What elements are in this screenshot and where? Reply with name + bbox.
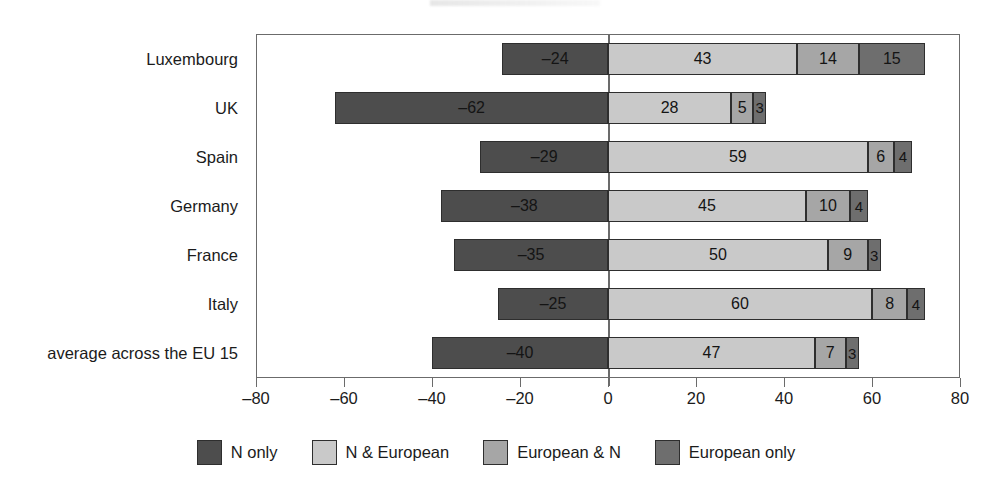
x-axis-tick-label: –60 [330, 390, 358, 407]
y-axis-label: Germany [170, 198, 238, 215]
x-axis-tick-label: –40 [418, 390, 446, 407]
y-axis-label: Luxembourg [146, 51, 238, 68]
scan-artifact [430, 0, 600, 6]
x-axis: –80–60–40–20020406080 [256, 378, 960, 379]
stacked-bar-chart: LuxembourgUKSpainGermanyFranceItalyavera… [0, 0, 992, 483]
legend-item[interactable]: European & N [483, 440, 621, 465]
legend-item[interactable]: N only [197, 440, 278, 465]
x-axis-tick [432, 378, 433, 387]
x-axis-tick-label: –80 [242, 390, 270, 407]
legend-item[interactable]: N & European [312, 440, 450, 465]
x-axis-tick-label: 60 [863, 390, 881, 407]
legend-label: N & European [346, 444, 450, 461]
x-axis-tick [256, 378, 257, 387]
x-axis-tick [520, 378, 521, 387]
x-axis-tick [960, 378, 961, 387]
x-axis-tick-label: 0 [603, 390, 612, 407]
x-axis-tick-label: 20 [687, 390, 705, 407]
legend-swatch-icon [197, 440, 222, 465]
legend-swatch-icon [312, 440, 337, 465]
x-axis-tick-label: 40 [775, 390, 793, 407]
y-axis-label: average across the EU 15 [47, 345, 238, 362]
y-axis-label: Italy [208, 296, 238, 313]
legend-item[interactable]: European only [655, 440, 795, 465]
x-axis-tick-label: 80 [951, 390, 969, 407]
y-axis-label: France [187, 247, 238, 264]
y-axis-label: UK [215, 100, 238, 117]
chart-legend: N onlyN & EuropeanEuropean & NEuropean o… [0, 432, 992, 472]
legend-label: European only [689, 444, 795, 461]
legend-label: N only [231, 444, 278, 461]
legend-swatch-icon [483, 440, 508, 465]
x-axis-tick [344, 378, 345, 387]
x-axis-tick [608, 378, 609, 387]
x-axis-tick [784, 378, 785, 387]
x-axis-tick [872, 378, 873, 387]
y-axis-category-labels: LuxembourgUKSpainGermanyFranceItalyavera… [0, 34, 248, 378]
x-axis-tick [696, 378, 697, 387]
x-axis-tick-label: –20 [506, 390, 534, 407]
legend-swatch-icon [655, 440, 680, 465]
zero-axis-line [608, 34, 610, 386]
y-axis-label: Spain [196, 149, 238, 166]
legend-label: European & N [517, 444, 621, 461]
